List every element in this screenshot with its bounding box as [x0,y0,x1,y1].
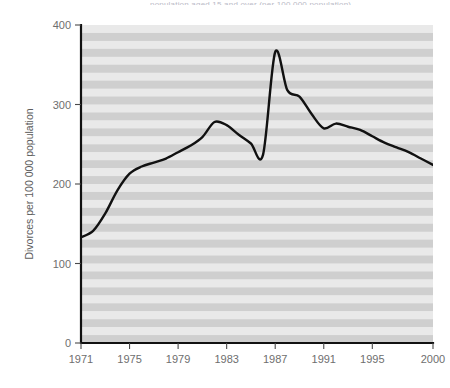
background-band [81,319,433,327]
background-band [81,287,433,295]
background-band [81,279,433,287]
line-chart-plot: 0100200300400 19711975197919831987199119… [0,0,450,388]
background-band [81,224,433,232]
background-band [81,81,433,89]
background-band [81,105,433,113]
x-tick-label: 2000 [421,353,445,365]
background-band [81,57,433,65]
y-axis-title: Divorces per 100 000 population [23,108,35,259]
y-axis-ticks: 0100200300400 [53,19,81,349]
background-band [81,216,433,224]
background-band [81,327,433,335]
background-band [81,25,433,33]
background-band [81,232,433,240]
x-tick-label: 1975 [117,353,141,365]
background-band [81,264,433,272]
y-tick-label: 100 [53,258,71,270]
background-band [81,311,433,319]
banded-background [81,25,433,343]
background-band [81,112,433,120]
background-band [81,73,433,81]
background-band [81,89,433,97]
y-tick-label: 200 [53,178,71,190]
background-band [81,144,433,152]
background-band [81,256,433,264]
x-axis-ticks: 19711975197919831987199119952000 [69,343,445,365]
background-band [81,41,433,49]
x-tick-label: 1979 [166,353,190,365]
y-tick-label: 0 [65,337,71,349]
background-band [81,200,433,208]
x-tick-label: 1971 [69,353,93,365]
background-band [81,33,433,41]
background-band [81,97,433,105]
x-tick-label: 1983 [214,353,238,365]
background-band [81,65,433,73]
x-tick-label: 1987 [263,353,287,365]
background-band [81,176,433,184]
x-tick-label: 1995 [360,353,384,365]
background-band [81,295,433,303]
background-band [81,49,433,57]
background-band [81,128,433,136]
background-band [81,271,433,279]
background-band [81,120,433,128]
y-tick-label: 400 [53,19,71,31]
x-tick-label: 1991 [312,353,336,365]
background-band [81,240,433,248]
y-tick-label: 300 [53,99,71,111]
background-band [81,160,433,168]
background-band [81,192,433,200]
chart-figure: population aged 15 and over (per 100 000… [0,0,450,388]
background-band [81,248,433,256]
background-band [81,184,433,192]
background-band [81,303,433,311]
background-band [81,208,433,216]
